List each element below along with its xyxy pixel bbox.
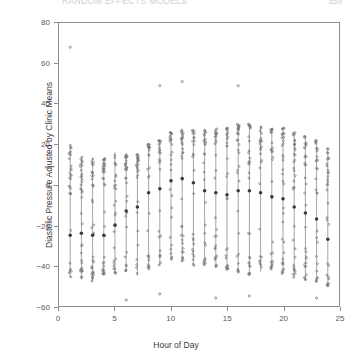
mean-marker (259, 191, 263, 195)
observation-point (136, 267, 138, 269)
mean-marker (136, 205, 140, 209)
hour-column (180, 129, 184, 262)
observation-point (171, 207, 173, 209)
observation-point (283, 241, 285, 243)
observation-point (261, 132, 263, 134)
observation-point (249, 127, 251, 129)
observation-point (261, 159, 263, 161)
observation-point (248, 136, 250, 138)
observation-point (328, 265, 330, 267)
outlier-point (159, 85, 161, 87)
observation-point (294, 273, 296, 275)
observation-point (305, 204, 307, 206)
observation-point (294, 256, 296, 258)
observation-point (182, 248, 184, 250)
observation-point (160, 262, 162, 264)
outlier-point (181, 81, 183, 83)
observation-point (81, 262, 83, 264)
observation-point (137, 169, 139, 171)
observation-point (281, 145, 283, 147)
observation-point (115, 258, 117, 260)
observation-point (114, 187, 116, 189)
observation-point (68, 272, 70, 274)
observation-point (292, 273, 294, 275)
observation-point (294, 149, 296, 151)
y-tick-label: −20 (16, 221, 50, 230)
mean-marker (102, 233, 106, 237)
observation-point (193, 144, 195, 146)
x-axis-title: Hour of Day (0, 340, 352, 350)
observation-point (272, 147, 274, 149)
hour-column (79, 156, 83, 280)
observation-point (326, 274, 328, 276)
hour-column (326, 148, 330, 287)
observation-point (147, 230, 149, 232)
hour-column (113, 152, 117, 274)
observation-point (238, 232, 240, 234)
observation-point (124, 256, 126, 258)
observation-point (272, 252, 274, 254)
x-tick-mark (227, 307, 228, 311)
x-tick-label: 10 (156, 314, 186, 323)
observation-point (294, 154, 296, 156)
mean-marker (214, 191, 218, 195)
observation-point (281, 273, 283, 275)
mean-marker (326, 238, 330, 242)
hour-column (248, 123, 252, 276)
hour-column (68, 144, 72, 277)
observation-point (317, 148, 319, 150)
observation-point (304, 192, 306, 194)
observation-point (70, 229, 72, 231)
observation-point (283, 127, 285, 129)
mean-marker (225, 193, 229, 197)
observation-point (158, 230, 160, 232)
plot-canvas (59, 23, 339, 306)
hour-column (303, 136, 307, 281)
observation-point (316, 263, 318, 265)
observation-point (326, 163, 328, 165)
x-tick-label: 20 (269, 314, 299, 323)
observation-point (81, 244, 83, 246)
observation-point (260, 266, 262, 268)
observation-point (238, 152, 240, 154)
x-tick-label: 25 (325, 314, 352, 323)
observation-point (281, 238, 283, 240)
mean-marker (113, 223, 117, 227)
observation-point (305, 258, 307, 260)
observation-point (294, 159, 296, 161)
observation-point (270, 261, 272, 263)
observation-point (70, 169, 72, 171)
observation-point (317, 168, 319, 170)
observation-point (305, 183, 307, 185)
hour-column (225, 127, 229, 270)
observation-point (113, 265, 115, 267)
observation-point (115, 200, 117, 202)
observation-point (204, 138, 206, 140)
observation-point (126, 195, 128, 197)
hour-column (292, 132, 296, 279)
observation-point (115, 212, 117, 214)
observation-point (81, 181, 83, 183)
y-tick-mark (54, 185, 58, 186)
observation-point (259, 130, 261, 132)
mean-marker (281, 197, 285, 201)
observation-point (282, 173, 284, 175)
mean-marker (169, 179, 173, 183)
observation-point (272, 241, 274, 243)
observation-point (193, 169, 195, 171)
observation-point (326, 165, 328, 167)
observation-point (227, 132, 229, 134)
observation-point (193, 140, 195, 142)
observation-point (70, 276, 72, 278)
observation-point (104, 211, 106, 213)
mean-marker (180, 177, 184, 181)
x-tick-mark (171, 307, 172, 311)
observation-point (272, 156, 274, 158)
hour-column (259, 126, 263, 272)
observation-point (259, 183, 261, 185)
observation-point (203, 162, 205, 164)
observation-point (315, 189, 317, 191)
observation-point (238, 166, 240, 168)
observation-point (193, 136, 195, 138)
hour-column (158, 140, 162, 266)
